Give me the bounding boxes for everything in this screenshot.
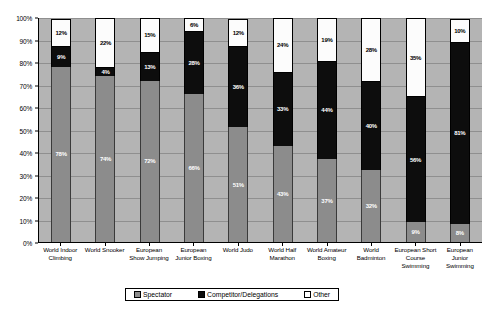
y-axis-tick-label: 10% [20, 217, 32, 224]
bar-segment-label: 4% [101, 69, 109, 75]
chart-legend: SpectatorCompetitor/DelegationsOther [125, 288, 339, 301]
stacked-bar[interactable]: 15%13%72% [140, 18, 160, 242]
legend-label: Spectator [143, 291, 172, 298]
x-axis-label: European Show Jumping [127, 246, 171, 270]
bar-segment-label: 37% [321, 198, 332, 204]
legend-item[interactable]: Competitor/Delegations [198, 291, 278, 298]
bar-segment-label: 40% [366, 123, 377, 129]
bar-segment[interactable]: 35% [406, 18, 426, 96]
bar-segment[interactable]: 78% [51, 67, 71, 243]
bar-group: 12%9%78% [39, 18, 83, 242]
bar-segment[interactable]: 74% [95, 76, 115, 242]
bar-segment-label: 10% [454, 28, 465, 34]
x-axis-tick [415, 243, 416, 246]
y-axis-tick-label: 50% [20, 127, 32, 134]
bar-segment[interactable]: 44% [317, 61, 337, 160]
bar-segment[interactable]: 32% [361, 170, 381, 242]
x-axis-tick [460, 243, 461, 246]
bar-segment-label: 66% [188, 165, 199, 171]
bar-segment-label: 8% [456, 230, 464, 236]
bar-segment-label: 15% [144, 32, 155, 38]
bar-segment-label: 35% [410, 55, 421, 61]
bar-segment[interactable]: 56% [406, 96, 426, 221]
bar-segment[interactable]: 33% [273, 72, 293, 146]
bar-segment-label: 12% [56, 30, 67, 36]
stacked-bar[interactable]: 10%81%8% [450, 18, 470, 242]
stacked-bar[interactable]: 6%28%66% [184, 18, 204, 242]
y-axis-tick-label: 40% [20, 150, 32, 157]
bar-segment[interactable]: 12% [51, 19, 71, 46]
bar-segment[interactable]: 81% [450, 42, 470, 224]
legend-item[interactable]: Spectator [134, 291, 172, 298]
bar-segment[interactable]: 10% [450, 19, 470, 42]
x-axis-labels: World Indoor ClimbingWorld SnookerEurope… [38, 246, 482, 270]
bar-segment-label: 78% [56, 151, 67, 157]
bar-segment-label: 6% [190, 22, 198, 28]
y-axis-tick-label: 100% [16, 15, 32, 22]
bar-segment[interactable]: 13% [140, 52, 160, 81]
bar-segment-label: 32% [366, 203, 377, 209]
bar-group: 15%13%72% [128, 18, 172, 242]
bar-segment-label: 24% [277, 42, 288, 48]
bar-group: 6%28%66% [172, 18, 216, 242]
bar-segment-label: 72% [144, 158, 155, 164]
y-axis-tick-label: 0% [23, 240, 32, 247]
bar-segment[interactable]: 28% [361, 18, 381, 81]
bar-segment[interactable]: 8% [450, 224, 470, 242]
bar-segment-label: 28% [366, 47, 377, 53]
bar-segment-label: 36% [233, 84, 244, 90]
bar-segment[interactable]: 12% [228, 19, 248, 46]
stacked-bar[interactable]: 22%4%74% [95, 18, 115, 242]
bar-segment[interactable]: 28% [184, 31, 204, 94]
bar-segment-label: 13% [144, 64, 155, 70]
y-axis: 0%10%20%30%40%50%60%70%80%90%100% [0, 18, 36, 243]
bar-segment[interactable]: 51% [228, 127, 248, 242]
stacked-bar[interactable]: 35%56%9% [406, 18, 426, 242]
bar-group: 24%33%43% [260, 18, 304, 242]
stacked-bar[interactable]: 24%33%43% [273, 18, 293, 242]
bar-segment[interactable]: 19% [317, 18, 337, 61]
x-axis-tick [282, 243, 283, 246]
stacked-bar[interactable]: 19%44%37% [317, 18, 337, 242]
y-axis-tick-label: 60% [20, 105, 32, 112]
bar-segment[interactable]: 37% [317, 159, 337, 242]
bar-segment[interactable]: 24% [273, 18, 293, 72]
x-axis-tick [60, 243, 61, 246]
bar-segment-label: 28% [188, 60, 199, 66]
bar-segment[interactable]: 40% [361, 81, 381, 171]
bar-segment[interactable]: 9% [51, 46, 71, 66]
bar-segment-label: 9% [411, 229, 419, 235]
legend-label: Other [313, 291, 330, 298]
bar-segment[interactable]: 9% [406, 222, 426, 242]
legend-item[interactable]: Other [304, 291, 330, 298]
x-axis-tick [193, 243, 194, 246]
bar-segment-label: 74% [100, 156, 111, 162]
x-axis-label: European Short Course Swimming [393, 246, 437, 270]
bar-segment[interactable]: 22% [95, 18, 115, 67]
x-axis-label: European Junior Swimming [438, 246, 482, 270]
bar-group: 35%56%9% [393, 18, 437, 242]
bar-segment-label: 12% [233, 30, 244, 36]
bar-segment[interactable]: 72% [140, 81, 160, 242]
bar-segment[interactable]: 15% [140, 18, 160, 52]
bar-group: 28%40%32% [349, 18, 393, 242]
bar-segment[interactable]: 66% [184, 94, 204, 242]
stacked-bar-chart: 0%10%20%30%40%50%60%70%80%90%100% 12%9%7… [0, 0, 496, 312]
bar-segment[interactable]: 4% [95, 67, 115, 76]
bars-container: 12%9%78%22%4%74%15%13%72%6%28%66%12%36%5… [39, 18, 482, 242]
x-axis-tick [105, 243, 106, 246]
bar-segment[interactable]: 43% [273, 146, 293, 242]
bar-group: 19%44%37% [305, 18, 349, 242]
x-axis-label: World Indoor Climbing [38, 246, 82, 270]
bar-segment[interactable]: 36% [228, 46, 248, 127]
x-axis-tick [327, 243, 328, 246]
stacked-bar[interactable]: 12%9%78% [51, 18, 71, 242]
bar-segment-label: 44% [321, 107, 332, 113]
stacked-bar[interactable]: 28%40%32% [361, 18, 381, 242]
bar-segment[interactable]: 6% [184, 18, 204, 31]
bar-segment-label: 56% [410, 157, 421, 163]
legend-swatch-icon [198, 291, 205, 298]
y-axis-tick-label: 70% [20, 82, 32, 89]
stacked-bar[interactable]: 12%36%51% [228, 18, 248, 242]
legend-swatch-icon [134, 291, 141, 298]
